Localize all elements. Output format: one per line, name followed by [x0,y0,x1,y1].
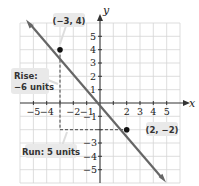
point-neg3-4 [57,47,63,53]
tick-label: 3 [137,106,143,117]
callout-rise: Rise: −6 units [11,68,58,94]
coordinate-plane: x y −5 −4 −2 −1 2 3 4 5 5 4 3 2 1 −1 −3 … [0,0,199,186]
x-tick-labels: −5 −4 −2 −1 2 3 4 5 [26,106,169,117]
tick-label: 2 [124,106,130,117]
callout-point1: (−3, 4) [53,13,86,44]
tick-label: −4 [40,106,54,117]
tick-label: −3 [83,137,97,148]
tick-label: −4 [83,151,97,162]
tick-label: −5 [26,106,40,117]
callout-run: Run: 5 units [22,132,80,158]
tick-label: −1 [83,111,97,122]
tick-label: 2 [90,71,96,82]
tick-label: −2 [66,106,80,117]
tick-label: 4 [90,44,96,55]
tick-label: −5 [83,164,97,175]
tick-label: 5 [90,31,96,42]
x-axis-label: x [189,97,196,110]
point1-label: (−3, 4) [53,16,86,26]
y-axis-label: y [102,4,110,17]
run-label: Run: 5 units [22,147,80,157]
point-2-neg2 [124,127,130,133]
rise-label-line1: Rise: [14,71,38,81]
tick-label: 4 [150,106,156,117]
rise-label-line2: −6 units [14,82,54,92]
point2-label: (2, −2) [146,125,179,135]
callout-point2: (2, −2) [146,122,179,136]
tick-label: 3 [90,57,96,68]
tick-label: 5 [164,106,170,117]
